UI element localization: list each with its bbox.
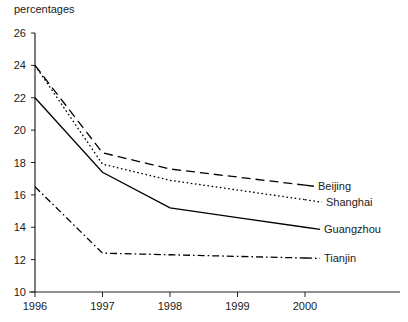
leader-line-beijing: [305, 185, 314, 186]
series-label-guangzhou: Guangzhou: [324, 223, 381, 235]
x-tick-label: 1996: [23, 300, 47, 312]
x-tick-label: 2000: [293, 300, 317, 312]
y-tick-label: 22: [14, 92, 26, 104]
y-tick-label: 20: [14, 124, 26, 136]
series-lines: [35, 65, 322, 258]
x-axis-ticks: 19961997199819992000: [23, 292, 317, 312]
leader-line-guangzhou: [305, 227, 320, 229]
y-tick-label: 14: [14, 221, 26, 233]
y-tick-label: 16: [14, 189, 26, 201]
series-labels: BeijingShanghaiGuangzhouTianjin: [318, 180, 381, 264]
y-tick-label: 12: [14, 254, 26, 266]
series-label-shanghai: Shanghai: [326, 196, 373, 208]
series-label-tianjin: Tianjin: [324, 252, 356, 264]
series-line-shanghai: [35, 65, 305, 199]
series-label-beijing: Beijing: [318, 180, 351, 192]
line-chart: percentages 101214161820222426 199619971…: [0, 0, 408, 322]
y-tick-label: 10: [14, 286, 26, 298]
x-tick-label: 1997: [90, 300, 114, 312]
series-line-guangzhou: [35, 98, 305, 228]
x-tick-label: 1999: [225, 300, 249, 312]
y-tick-label: 18: [14, 157, 26, 169]
y-tick-label: 26: [14, 27, 26, 39]
y-axis-ticks: 101214161820222426: [14, 27, 35, 298]
x-tick-label: 1998: [158, 300, 182, 312]
series-line-tianjin: [35, 187, 305, 258]
y-tick-label: 24: [14, 59, 26, 71]
leader-line-shanghai: [305, 200, 322, 202]
plot-area: 101214161820222426 19961997199819992000 …: [0, 0, 408, 322]
